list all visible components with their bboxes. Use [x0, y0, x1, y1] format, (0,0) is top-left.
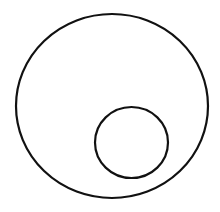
outer-circle [16, 14, 208, 198]
diagram-svg [0, 0, 220, 212]
diagram-canvas [0, 0, 220, 212]
inner-circle [95, 107, 168, 178]
